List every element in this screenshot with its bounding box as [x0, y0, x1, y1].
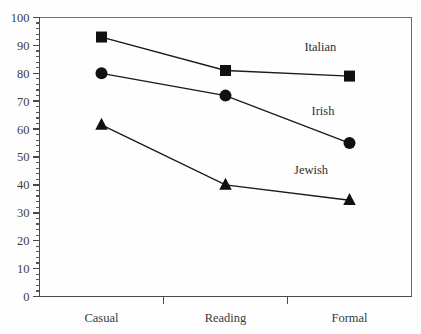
x-axis-category-label: Casual [84, 311, 119, 325]
series-label-jewish: Jewish [294, 163, 329, 177]
y-axis-tick-label: 70 [17, 95, 30, 109]
data-point-square [220, 65, 231, 76]
y-axis-tick-label: 0 [23, 290, 29, 304]
data-point-circle [96, 67, 108, 79]
y-axis-tick-label: 30 [17, 206, 30, 220]
chart-container: 0102030405060708090100 CasualReadingForm… [0, 0, 421, 334]
y-axis-tick-label: 40 [17, 178, 30, 192]
chart-background [0, 0, 421, 334]
y-axis-tick-label: 50 [17, 150, 30, 164]
x-axis-category-label: Formal [331, 311, 368, 325]
y-axis-tick-label: 20 [17, 234, 30, 248]
y-axis-tick-label: 60 [17, 123, 30, 137]
y-axis-tick-label: 90 [17, 39, 30, 53]
data-point-square [344, 71, 355, 82]
y-axis-tick-label: 80 [17, 67, 30, 81]
data-point-circle [344, 137, 356, 149]
line-chart-plot: 0102030405060708090100 CasualReadingForm… [0, 0, 421, 334]
series-label-irish: Irish [312, 104, 336, 118]
data-point-circle [220, 90, 232, 102]
x-axis-category-label: Reading [205, 311, 247, 325]
y-axis-tick-label: 100 [11, 11, 30, 25]
series-label-italian: Italian [304, 40, 337, 54]
data-point-square [96, 32, 107, 43]
y-axis-tick-label: 10 [17, 262, 30, 276]
